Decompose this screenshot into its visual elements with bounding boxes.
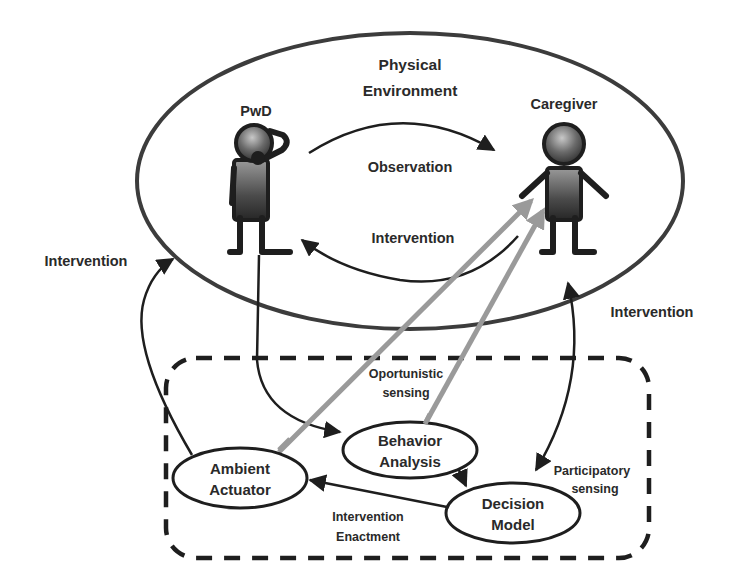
decision-to-actuator-arrow [310, 480, 447, 507]
participatory-sensing-label-line1: Participatory [554, 464, 630, 478]
decision-model-label-line2: Model [491, 516, 534, 533]
environment-label-line2: Environment [363, 82, 458, 99]
ambient-actuator-label-line1: Ambient [210, 460, 270, 477]
opportunistic-sensing-label-line2: sensing [382, 386, 429, 400]
intervention-enactment-label-line2: Enactment [336, 530, 401, 544]
ambient-actuator-node: Ambient Actuator [173, 448, 307, 508]
ambient-actuator-label-line2: Actuator [209, 481, 271, 498]
behavior-analysis-node: Behavior Analysis [343, 422, 477, 478]
intervention-label-right: Intervention [611, 304, 694, 320]
behavior-analysis-label-line2: Analysis [379, 453, 441, 470]
behavior-analysis-label-line1: Behavior [378, 432, 442, 449]
decision-model-label-line1: Decision [482, 495, 545, 512]
environment-label-line1: Physical [379, 56, 442, 73]
physical-environment-boundary [137, 33, 683, 329]
intervention-arrow-left [141, 259, 192, 455]
pwd-figure-icon [230, 125, 290, 252]
intervention-label-inner: Intervention [372, 230, 455, 246]
observation-arrow [309, 123, 494, 153]
caregiver-label: Caregiver [531, 96, 598, 112]
caregiver-figure-icon [522, 124, 606, 252]
analysis-to-decision-arrow [458, 468, 466, 486]
observation-label: Observation [368, 159, 453, 175]
opportunistic-sensing-label-line1: Oportunistic [369, 367, 443, 381]
system-diagram: Physical Environment PwD Caregiver Obser… [0, 0, 734, 588]
intervention-enactment-label-line1: Intervention [332, 510, 404, 524]
intervention-label-left: Intervention [45, 253, 128, 269]
decision-model-node: Decision Model [446, 483, 580, 543]
pwd-label: PwD [240, 103, 271, 119]
participatory-sensing-label-line2: sensing [571, 482, 618, 496]
